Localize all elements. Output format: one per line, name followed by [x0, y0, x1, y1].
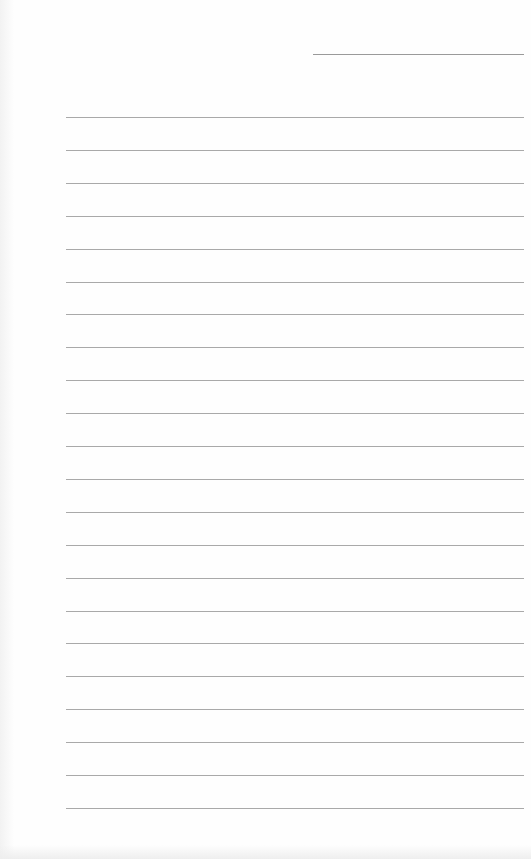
ruled-line [66, 413, 524, 414]
ruled-line [66, 380, 524, 381]
ruled-line [66, 216, 524, 217]
ruled-line [66, 676, 524, 677]
ruled-line [66, 282, 524, 283]
left-edge-shadow [0, 0, 14, 859]
ruled-line [66, 775, 524, 776]
ruled-line [66, 446, 524, 447]
ruled-line [66, 512, 524, 513]
ruled-line [66, 249, 524, 250]
ruled-line [66, 709, 524, 710]
ruled-line [66, 545, 524, 546]
ruled-line [66, 314, 524, 315]
date-line [313, 54, 524, 55]
ruled-line [66, 808, 524, 809]
ruled-line [66, 183, 524, 184]
bottom-edge-shadow [0, 845, 531, 859]
ruled-line [66, 479, 524, 480]
ruled-line [66, 643, 524, 644]
ruled-line [66, 117, 524, 118]
ruled-line [66, 742, 524, 743]
ruled-line [66, 347, 524, 348]
ruled-line [66, 611, 524, 612]
ruled-line [66, 150, 524, 151]
lined-paper-sheet [0, 0, 531, 859]
ruled-line [66, 578, 524, 579]
